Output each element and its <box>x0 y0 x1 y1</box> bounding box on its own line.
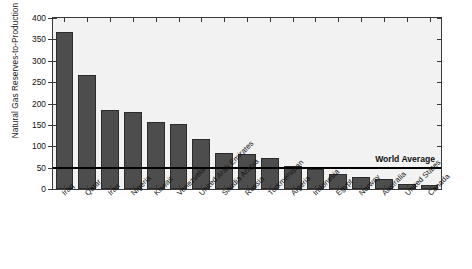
bar <box>124 112 142 189</box>
right-axis-tick <box>437 18 441 19</box>
x-axis-tick-top <box>407 18 408 22</box>
x-axis-tick-top <box>384 18 385 22</box>
chart-figure: Natural Gas Reserves-to-Production Ratio… <box>0 0 472 269</box>
x-axis-tick-top <box>315 18 316 22</box>
x-axis-tick-top <box>224 18 225 22</box>
x-axis-tick-top <box>110 18 111 22</box>
y-axis-tick-label: 250 <box>32 77 46 87</box>
x-axis-tick-top <box>156 18 157 22</box>
right-axis-tick <box>437 125 441 126</box>
y-axis-tick-inner <box>53 189 57 190</box>
y-axis-tick-label: 300 <box>32 56 46 66</box>
x-axis-tick-top <box>293 18 294 22</box>
right-axis-tick <box>437 39 441 40</box>
y-axis-tick-label: 50 <box>37 163 46 173</box>
x-axis-tick-top <box>64 18 65 22</box>
world-average-label: World Average <box>375 154 435 164</box>
y-axis-tick-label: 350 <box>32 34 46 44</box>
right-axis-tick <box>437 104 441 105</box>
bar <box>78 75 96 189</box>
x-axis-tick-top <box>270 18 271 22</box>
y-axis-tick-label: 200 <box>32 99 46 109</box>
x-axis-tick-top <box>247 18 248 22</box>
x-axis-tick-top <box>201 18 202 22</box>
x-axis-tick-top <box>87 18 88 22</box>
y-axis-tick-label: 100 <box>32 141 46 151</box>
bar <box>101 110 119 190</box>
y-axis-tick-label: 150 <box>32 120 46 130</box>
x-axis-tick-top <box>361 18 362 22</box>
y-axis-tick-inner <box>53 18 57 19</box>
x-axis-labels: IraqQatarIranNigeriaKuwaitVenezuelaUnite… <box>52 191 442 269</box>
x-axis-tick-top <box>133 18 134 22</box>
right-axis-tick <box>437 82 441 83</box>
y-axis-title: Natural Gas Reserves-to-Production Ratio <box>11 0 20 155</box>
y-axis-tick-label: 0 <box>41 184 46 194</box>
y-axis-tick-label: 400 <box>32 13 46 23</box>
bar <box>56 32 74 189</box>
right-axis-tick <box>437 61 441 62</box>
x-axis-tick-top <box>430 18 431 22</box>
x-axis-tick-top <box>179 18 180 22</box>
x-axis-tick-top <box>338 18 339 22</box>
right-axis-tick <box>437 146 441 147</box>
